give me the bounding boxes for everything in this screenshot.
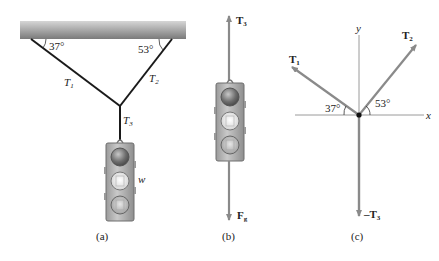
origin-point: [356, 112, 361, 117]
angle-label-37: 37°: [49, 40, 64, 52]
panel-a: 37° 53° T1 T2 T3 w (a): [20, 21, 186, 243]
angle-label-53: 53°: [138, 43, 153, 55]
y-axis-label: y: [355, 22, 361, 34]
traffic-light-b: [214, 80, 246, 161]
angle-arc-left: [43, 39, 46, 48]
caption-c: (c): [351, 230, 364, 243]
label-t2: T2: [149, 72, 159, 86]
label-vec-neg-t3: –T3: [363, 208, 381, 222]
panel-c: x y 37° 53° T1 T2 –T3 (c): [289, 22, 431, 243]
rope-t1: [31, 39, 120, 106]
ceiling: [20, 21, 186, 39]
angle-label-53-c: 53°: [375, 97, 390, 109]
label-t3-b: T3: [236, 14, 247, 28]
label-weight: w: [138, 173, 146, 185]
caption-b: (b): [222, 230, 235, 243]
label-fg: Fg: [237, 209, 248, 223]
label-t1: T1: [64, 76, 74, 90]
angle-label-37-c: 37°: [325, 102, 340, 114]
traffic-light-a: [104, 140, 136, 221]
label-t3: T3: [123, 114, 133, 128]
label-vec-t2: T2: [402, 29, 413, 43]
label-vec-t1: T1: [289, 53, 300, 67]
x-axis-label: x: [425, 109, 431, 121]
angle-arc-37: [344, 106, 346, 115]
panel-b: T3 Fg (b): [214, 14, 248, 243]
free-body-diagram: 37° 53° T1 T2 T3 w (a) T3 Fg (b) x y 37°…: [0, 0, 439, 261]
angle-arc-right: [159, 39, 163, 50]
caption-a: (a): [96, 230, 109, 243]
